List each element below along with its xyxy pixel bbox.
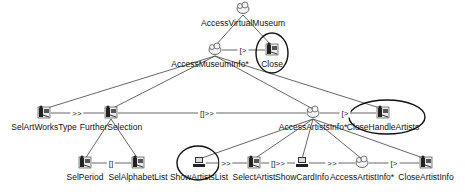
- task-label: AccessVirtualMuseum: [201, 18, 285, 28]
- task-label: SelectArtist: [233, 172, 276, 182]
- interaction-task-icon: [79, 155, 91, 168]
- interaction-task-icon: [248, 155, 260, 168]
- interaction-task-icon: [132, 155, 144, 168]
- task-label: CloseArtistInfo: [398, 172, 453, 182]
- task-label: AccessArtistsInfo*: [279, 122, 348, 132]
- task-label: AccessMuseumInfo*: [171, 59, 248, 69]
- temporal-operator: [>: [238, 46, 249, 55]
- task-label: SelAlphabetList: [108, 172, 167, 182]
- task-label: FurtherSelection: [80, 122, 142, 132]
- abstract-task-icon: [356, 156, 368, 168]
- temporal-operator: [>: [389, 159, 400, 168]
- abstract-task-icon: [209, 43, 221, 55]
- temporal-operator: []>>: [269, 159, 287, 168]
- temporal-operator: >>: [70, 109, 83, 118]
- temporal-operator: []: [107, 159, 115, 168]
- task-label: CloseHandleArtists: [347, 122, 419, 132]
- task-label: AccessArtistInfo*: [330, 172, 394, 182]
- temporal-operator: [>: [340, 109, 351, 118]
- interaction-task-icon: [38, 105, 50, 118]
- interaction-task-icon: [377, 105, 389, 118]
- temporal-operator: >>: [219, 159, 232, 168]
- task-label: Close: [261, 59, 283, 69]
- temporal-operator: []>>: [198, 109, 216, 118]
- task-label: ShowArtistsList: [170, 172, 228, 182]
- abstract-task-icon: [237, 2, 249, 14]
- abstract-task-icon: [307, 106, 319, 118]
- interaction-task-icon: [105, 105, 117, 118]
- application-task-icon: [296, 157, 308, 167]
- task-label: ShowCardInfo: [275, 172, 329, 182]
- task-label: SelPeriod: [67, 172, 104, 182]
- interaction-task-icon: [420, 155, 432, 168]
- task-label: SelArtWorksType: [11, 122, 77, 132]
- temporal-operator: >>: [325, 159, 338, 168]
- interaction-task-icon: [266, 42, 278, 55]
- application-task-icon: [193, 157, 205, 167]
